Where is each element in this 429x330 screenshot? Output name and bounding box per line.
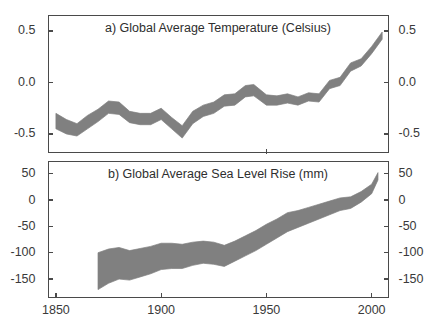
y-axis-label-right-temperature: 0.0 bbox=[399, 76, 416, 89]
y-tick-right-temperature bbox=[384, 82, 389, 83]
sea-level-uncertainty-band bbox=[0, 0, 429, 330]
y-tick-right-sea-level bbox=[384, 199, 389, 200]
y-tick-left-sea-level bbox=[48, 226, 53, 227]
x-tick bbox=[55, 293, 56, 298]
y-axis-label-left-temperature: 0.5 bbox=[0, 24, 36, 37]
y-tick-right-sea-level bbox=[384, 252, 389, 253]
y-tick-left-temperature bbox=[48, 30, 53, 31]
y-tick-left-temperature bbox=[48, 133, 53, 134]
x-axis-label: 1950 bbox=[236, 304, 296, 317]
y-tick-right-sea-level bbox=[384, 226, 389, 227]
climate-figure: a) Global Average Temperature (Celsius) … bbox=[0, 0, 429, 330]
x-axis-label: 2000 bbox=[342, 304, 402, 317]
x-axis-label: 1850 bbox=[26, 304, 86, 317]
y-axis-label-right-sea-level: 0 bbox=[399, 194, 406, 207]
y-tick-left-sea-level bbox=[48, 252, 53, 253]
y-axis-label-left-sea-level: -100 bbox=[0, 246, 36, 259]
y-axis-label-right-sea-level: -50 bbox=[399, 220, 417, 233]
x-tick bbox=[266, 293, 267, 298]
y-axis-label-left-temperature: -0.5 bbox=[0, 127, 36, 140]
x-tick bbox=[161, 293, 162, 298]
y-tick-right-sea-level bbox=[384, 173, 389, 174]
x-tick bbox=[371, 293, 372, 298]
y-axis-label-left-sea-level: -150 bbox=[0, 273, 36, 286]
y-axis-label-left-sea-level: 50 bbox=[0, 167, 36, 180]
y-tick-left-sea-level bbox=[48, 173, 53, 174]
y-tick-left-sea-level bbox=[48, 199, 53, 200]
y-axis-label-right-temperature: -0.5 bbox=[399, 127, 421, 140]
sea-level-band-shape bbox=[98, 173, 378, 290]
y-axis-label-left-sea-level: -50 bbox=[0, 220, 36, 233]
y-axis-label-right-sea-level: -150 bbox=[399, 273, 424, 286]
x-tick-interpanel bbox=[266, 149, 267, 154]
y-axis-label-left-temperature: 0.0 bbox=[0, 76, 36, 89]
y-tick-left-temperature bbox=[48, 82, 53, 83]
y-axis-label-left-sea-level: 0 bbox=[0, 194, 36, 207]
y-axis-label-right-temperature: 0.5 bbox=[399, 24, 416, 37]
y-axis-label-right-sea-level: 50 bbox=[399, 167, 413, 180]
y-tick-right-temperature bbox=[384, 133, 389, 134]
y-axis-label-right-sea-level: -100 bbox=[399, 246, 424, 259]
x-axis-label: 1900 bbox=[131, 304, 191, 317]
y-tick-left-sea-level bbox=[48, 278, 53, 279]
y-tick-right-sea-level bbox=[384, 278, 389, 279]
y-tick-right-temperature bbox=[384, 30, 389, 31]
